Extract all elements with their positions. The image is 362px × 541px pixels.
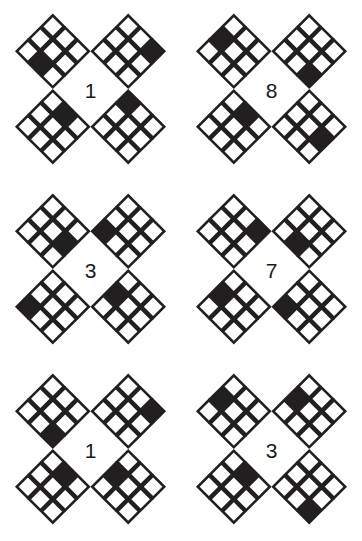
diamond-cluster	[0, 180, 181, 360]
diamond-bottom-right[interactable]	[273, 271, 345, 343]
diamond-bottom-right[interactable]	[92, 451, 164, 523]
puzzle-group: 1	[0, 0, 181, 180]
diamond-bottom-left[interactable]	[17, 451, 89, 523]
diamond-bottom-right[interactable]	[273, 451, 345, 523]
diamond-top-left[interactable]	[198, 195, 270, 267]
diamond-top-right[interactable]	[92, 195, 164, 267]
diamond-bottom-left[interactable]	[17, 271, 89, 343]
diamond-bottom-left[interactable]	[198, 451, 270, 523]
puzzle-group: 8	[181, 0, 362, 180]
diamond-bottom-left[interactable]	[17, 91, 89, 163]
diamond-top-left[interactable]	[198, 375, 270, 447]
diamond-bottom-left[interactable]	[198, 91, 270, 163]
diamond-top-right[interactable]	[273, 195, 345, 267]
diamond-cluster	[0, 360, 181, 540]
diamond-top-right[interactable]	[273, 375, 345, 447]
diamond-top-left[interactable]	[198, 15, 270, 87]
diamond-top-left[interactable]	[17, 15, 89, 87]
diamond-top-right[interactable]	[92, 15, 164, 87]
diamond-cluster	[181, 0, 362, 180]
diamond-top-left[interactable]	[17, 195, 89, 267]
diamond-top-left[interactable]	[17, 375, 89, 447]
puzzle-group: 1	[0, 360, 181, 540]
puzzle-group: 7	[181, 180, 362, 360]
diamond-top-right[interactable]	[273, 15, 345, 87]
diamond-cluster	[181, 180, 362, 360]
diamond-bottom-left[interactable]	[198, 271, 270, 343]
diamond-bottom-right[interactable]	[92, 91, 164, 163]
diamond-bottom-right[interactable]	[92, 271, 164, 343]
puzzle-group: 3	[0, 180, 181, 360]
diamond-top-right[interactable]	[92, 375, 164, 447]
diamond-bottom-right[interactable]	[273, 91, 345, 163]
puzzle-sheet: 183713	[0, 0, 362, 541]
diamond-cluster	[0, 0, 181, 180]
diamond-cluster	[181, 360, 362, 540]
puzzle-group: 3	[181, 360, 362, 540]
